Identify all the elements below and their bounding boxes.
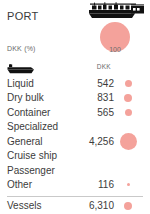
table-row[interactable]: Liquid 542 — [7, 76, 143, 91]
row-bubble — [117, 178, 139, 193]
row-bubble — [117, 134, 139, 149]
row-label: Liquid — [7, 78, 34, 89]
table-row[interactable]: Container 565 — [7, 105, 143, 120]
row-value: 116 — [98, 179, 114, 190]
page-title: PORT — [7, 10, 39, 22]
port-header: PORT — [0, 0, 150, 60]
table-row[interactable]: Specialized — [7, 120, 143, 135]
total-value: 6,310 — [89, 200, 114, 211]
row-value: 4,256 — [89, 136, 114, 147]
total-label: Vessels — [7, 200, 41, 211]
row-label: Specialized — [7, 121, 58, 132]
row-value: 831 — [97, 92, 114, 103]
table-row[interactable]: Dry bulk 831 — [7, 91, 143, 106]
hero-value-label: 100 — [100, 46, 130, 53]
cargo-vessel-icon — [88, 2, 146, 22]
cargo-boat-icon — [7, 61, 39, 72]
row-label: General — [7, 136, 43, 147]
port-table: DKK Liquid 542 Dry bulk 831 Container 56… — [0, 60, 150, 192]
row-label: Dry bulk — [7, 92, 44, 103]
row-label: Other — [7, 179, 32, 190]
value-column-header: DKK — [97, 63, 111, 70]
unit-label: DKK (%) — [7, 45, 36, 52]
row-value: 542 — [97, 78, 114, 89]
row-bubble — [117, 120, 139, 135]
row-label: Container — [7, 107, 50, 118]
row-bubble — [117, 76, 139, 91]
table-row[interactable]: Cruise ship — [7, 149, 143, 164]
table-row[interactable]: Other 116 — [7, 178, 143, 193]
table-row[interactable]: Passenger — [7, 163, 143, 178]
total-bubble — [117, 197, 139, 214]
row-bubble — [117, 149, 139, 164]
total-row: Vessels 6,310 — [7, 197, 143, 214]
table-header-row: DKK — [7, 60, 143, 76]
table-row[interactable]: General 4,256 — [7, 134, 143, 149]
row-bubble — [117, 91, 139, 106]
row-label: Cruise ship — [7, 150, 57, 161]
row-label: Passenger — [7, 165, 55, 176]
row-bubble — [117, 105, 139, 120]
row-value: 565 — [97, 107, 114, 118]
row-bubble — [117, 163, 139, 178]
